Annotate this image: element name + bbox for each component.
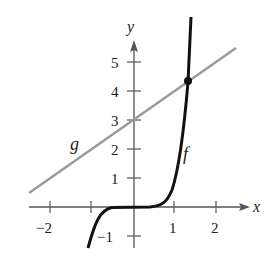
label-g: g (70, 134, 79, 154)
y-tick-label-1: 1 (111, 171, 119, 187)
y-tick-label-3: 3 (111, 113, 119, 129)
y-tick-label-4: 4 (111, 84, 119, 100)
series-f-curve (88, 17, 191, 248)
function-graph: −2 1 2 5 4 3 2 1 −1 x y g f (0, 0, 266, 258)
series-g-line (29, 48, 236, 193)
x-tick-label-1: 1 (169, 220, 177, 236)
x-tick-label-neg2: −2 (36, 220, 52, 236)
label-f: f (183, 144, 191, 164)
y-axis-label: y (125, 18, 135, 36)
y-tick-label-5: 5 (111, 55, 119, 71)
y-tick-label-2: 2 (111, 142, 119, 158)
intersection-point (184, 77, 192, 85)
x-tick-label-2: 2 (211, 220, 219, 236)
x-axis-label: x (252, 198, 260, 215)
y-tick-label-neg1: −1 (97, 229, 113, 245)
